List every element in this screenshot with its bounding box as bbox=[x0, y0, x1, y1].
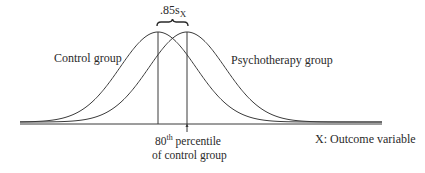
effect-size-value: .85 bbox=[160, 3, 175, 17]
x-axis-label: X: Outcome variable bbox=[315, 133, 416, 145]
psychotherapy-group-label: Psychotherapy group bbox=[231, 54, 333, 66]
psychotherapy-group-curve bbox=[20, 32, 382, 122]
effect-size-brace bbox=[157, 19, 188, 26]
effect-size-label: .85sX bbox=[160, 4, 186, 16]
percentile-number: 80 bbox=[155, 135, 167, 147]
percentile-text: percentile bbox=[173, 135, 221, 147]
percentile-line-2: of control group bbox=[152, 148, 256, 162]
effect-size-subscript: X bbox=[180, 9, 187, 19]
percentile-label: 80th percentile of control group bbox=[152, 134, 256, 162]
control-group-curve bbox=[20, 32, 382, 122]
control-group-label: Control group bbox=[54, 52, 122, 64]
percentile-line-1: 80th percentile bbox=[152, 134, 256, 148]
